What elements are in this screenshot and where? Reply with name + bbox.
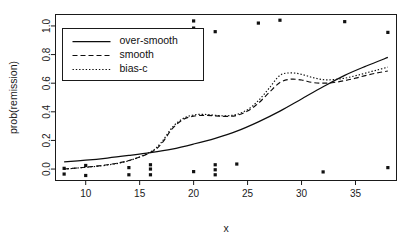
- data-point: [214, 168, 217, 171]
- legend-label-bias-c: bias-c: [120, 62, 148, 74]
- legend-label-over-smooth: over-smooth: [120, 34, 179, 46]
- data-point: [84, 164, 87, 167]
- data-point: [235, 162, 238, 165]
- data-point: [214, 173, 217, 176]
- data-point: [149, 167, 152, 170]
- data-point: [149, 163, 152, 166]
- data-point: [149, 173, 152, 176]
- y-tick-label: 0.6: [41, 76, 52, 90]
- data-point: [257, 21, 260, 24]
- data-point: [214, 30, 217, 33]
- data-point: [322, 170, 325, 173]
- y-tick-label: 1.0: [41, 19, 52, 33]
- x-tick-label: 10: [80, 188, 92, 199]
- data-point: [278, 19, 281, 22]
- chart-figure: 101520253035 0.00.20.40.60.81.0 x prob(r…: [0, 0, 409, 240]
- x-tick-label: 25: [242, 188, 254, 199]
- y-axis-title: prob(remission): [7, 61, 19, 134]
- data-point: [84, 174, 87, 177]
- data-point: [192, 19, 195, 22]
- x-tick-label: 15: [134, 188, 146, 199]
- chart-background: [0, 0, 409, 240]
- y-tick-label: 0.4: [41, 104, 52, 118]
- data-point: [343, 20, 346, 23]
- x-tick-label: 35: [350, 188, 362, 199]
- data-point: [214, 163, 217, 166]
- y-tick-label: 0.8: [41, 47, 52, 61]
- chart-canvas: 101520253035 0.00.20.40.60.81.0 x prob(r…: [0, 0, 409, 240]
- chart-legend: over-smoothsmoothbias-c: [63, 29, 204, 81]
- y-tick-label: 0.2: [41, 133, 52, 147]
- x-tick-label: 30: [296, 188, 308, 199]
- y-tick-label: 0.0: [41, 162, 52, 176]
- x-axis-title: x: [223, 222, 229, 234]
- data-point: [386, 31, 389, 34]
- data-point: [192, 170, 195, 173]
- x-tick-label: 20: [188, 188, 200, 199]
- data-point: [127, 166, 130, 169]
- data-point: [386, 166, 389, 169]
- data-point: [127, 173, 130, 176]
- data-point: [63, 172, 66, 175]
- legend-label-smooth: smooth: [120, 48, 155, 60]
